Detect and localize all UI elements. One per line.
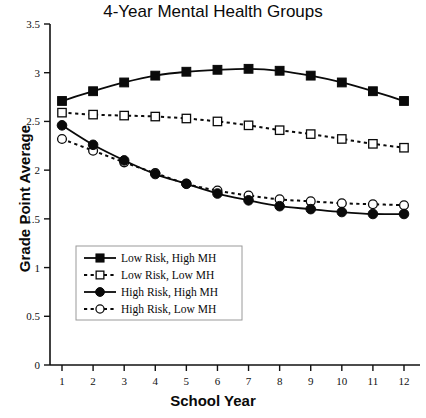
- marker-open-square: [338, 135, 346, 143]
- marker-filled-square: [244, 64, 253, 73]
- marker-open-square: [89, 110, 97, 118]
- marker-filled-square: [89, 87, 98, 96]
- y-tick-label: 3.5: [26, 18, 40, 30]
- marker-filled-circle: [275, 201, 285, 211]
- marker-filled-square: [151, 71, 160, 80]
- x-tick-label: 9: [308, 375, 314, 387]
- legend-label: High Risk, High MH: [121, 286, 218, 299]
- marker-filled-square: [400, 97, 409, 106]
- marker-open-square: [369, 140, 377, 148]
- chart-figure: 4-Year Mental Health Groups Grade Point …: [0, 0, 426, 418]
- x-tick-label: 8: [277, 375, 283, 387]
- marker-open-circle: [58, 135, 67, 144]
- marker-open-square: [307, 130, 315, 138]
- marker-filled-circle: [244, 196, 254, 206]
- marker-filled-square: [275, 66, 284, 75]
- marker-filled-square: [369, 87, 378, 96]
- marker-filled-circle: [57, 121, 67, 131]
- marker-open-circle: [369, 200, 378, 209]
- marker-filled-circle: [150, 169, 160, 179]
- chart-legend: Low Risk, High MHLow Risk, Low MHHigh Ri…: [76, 246, 242, 320]
- marker-open-square: [58, 108, 66, 116]
- x-tick-label: 1: [59, 375, 65, 387]
- x-tick-label: 10: [336, 375, 348, 387]
- series-line: [62, 139, 404, 205]
- marker-open-square: [275, 126, 283, 134]
- x-tick-label: 2: [90, 375, 96, 387]
- marker-open-circle: [400, 201, 409, 210]
- marker-open-square: [96, 271, 104, 279]
- series-1: [58, 64, 409, 105]
- marker-filled-square: [337, 78, 346, 87]
- marker-open-square: [213, 117, 221, 125]
- marker-filled-square: [213, 65, 222, 74]
- legend-label: High Risk, Low MH: [121, 303, 216, 316]
- marker-filled-circle: [88, 140, 98, 150]
- marker-open-square: [400, 144, 408, 152]
- marker-filled-circle: [306, 204, 316, 214]
- marker-open-square: [244, 121, 252, 129]
- data-series: [57, 64, 409, 218]
- marker-filled-circle: [337, 207, 347, 217]
- marker-open-square: [151, 112, 159, 120]
- marker-filled-square: [120, 78, 129, 87]
- x-tick-label: 4: [153, 375, 159, 387]
- marker-filled-square: [96, 254, 104, 262]
- x-tick-label: 11: [368, 375, 379, 387]
- marker-open-circle: [96, 305, 104, 313]
- marker-filled-circle: [119, 156, 129, 166]
- y-tick-label: 0: [35, 359, 41, 371]
- legend-label: Low Risk, Low MH: [121, 269, 214, 282]
- series-2: [58, 108, 408, 151]
- x-tick-label: 6: [215, 375, 221, 387]
- marker-filled-square: [182, 67, 191, 76]
- series-3: [57, 121, 409, 219]
- x-tick-label: 12: [399, 375, 410, 387]
- marker-filled-circle: [96, 288, 105, 297]
- y-tick-label: 3: [35, 67, 41, 79]
- x-axis-ticks: 123456789101112: [59, 365, 409, 387]
- y-tick-label: 1: [35, 262, 41, 274]
- marker-filled-square: [306, 71, 315, 80]
- marker-filled-circle: [368, 209, 378, 219]
- series-4: [58, 135, 409, 210]
- marker-filled-circle: [182, 179, 192, 189]
- series-line: [62, 125, 404, 214]
- plot-canvas: 00.511.522.533.5 123456789101112 Low Ris…: [0, 0, 426, 418]
- y-tick-label: 1.5: [26, 213, 40, 225]
- marker-open-circle: [337, 199, 346, 208]
- y-tick-label: 2.5: [26, 115, 40, 127]
- marker-open-square: [182, 114, 190, 122]
- marker-filled-circle: [399, 209, 409, 219]
- series-line: [62, 113, 404, 148]
- series-line: [62, 69, 404, 101]
- y-tick-label: 2: [35, 164, 41, 176]
- x-tick-label: 3: [121, 375, 127, 387]
- marker-filled-square: [58, 97, 67, 106]
- marker-filled-circle: [213, 189, 223, 199]
- marker-open-square: [120, 111, 128, 119]
- y-tick-label: 0.5: [26, 310, 40, 322]
- legend-label: Low Risk, High MH: [121, 252, 216, 265]
- x-tick-label: 5: [184, 375, 190, 387]
- y-axis-ticks: 00.511.522.533.5: [26, 18, 50, 371]
- x-tick-label: 7: [246, 375, 252, 387]
